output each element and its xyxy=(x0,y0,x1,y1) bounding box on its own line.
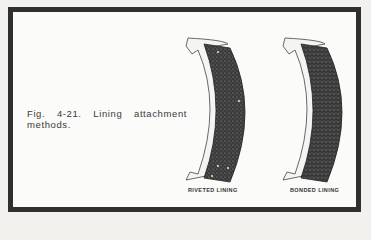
bonded-brake-shoe-illustration xyxy=(281,36,361,184)
brake-shoe-bonded-icon xyxy=(281,36,361,184)
brake-shoe-riveted-icon xyxy=(184,36,264,184)
riveted-lining-label: RIVETED LINING xyxy=(188,187,238,193)
bonded-lining-label: BONDED LINING xyxy=(290,187,339,193)
riveted-brake-shoe-illustration xyxy=(184,36,264,184)
figure-caption: Fig. 4-21. Lining attachment methods. xyxy=(27,108,187,130)
